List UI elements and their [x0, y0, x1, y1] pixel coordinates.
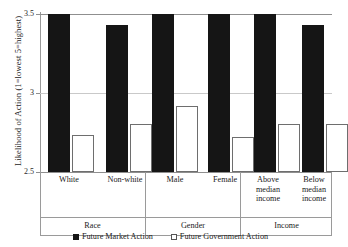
bar-market-female	[208, 14, 230, 172]
bar-market-above-median	[254, 14, 276, 172]
category-label-above-median-income: Above median income	[244, 175, 292, 204]
category-label-below-median-income-line-3: income	[290, 194, 338, 204]
bar-market-non-white	[106, 25, 128, 172]
legend-label-future-market-action: Future Market Action	[82, 232, 153, 241]
category-label-below-median-income-line-1: Below	[290, 175, 338, 185]
category-label-below-median-income-line-2: median	[290, 185, 338, 195]
category-label-above-median-income-line-2: median	[244, 185, 292, 195]
bar-market-white	[48, 14, 70, 172]
group-label-gender: Gender	[146, 221, 240, 231]
group-label-race: Race	[40, 221, 145, 231]
legend-swatch-filled-square-icon	[73, 234, 79, 240]
y-tick-label-bottom: 2.5	[14, 168, 34, 176]
legend-item-future-government-action: Future Government Action	[171, 232, 268, 241]
category-label-below-median-income: Below median income	[290, 175, 338, 204]
bar-government-non-white	[130, 124, 152, 172]
category-label-non-white: Non-white	[96, 175, 154, 185]
gridline-3	[40, 93, 332, 94]
y-tick-label-mid: 3	[14, 89, 34, 97]
plot-area	[40, 14, 332, 172]
bar-government-below-median	[326, 124, 348, 172]
bar-market-below-median	[302, 25, 324, 172]
bar-government-white	[72, 135, 94, 172]
category-label-white: White	[42, 175, 96, 185]
legend-swatch-outlined-square-icon	[171, 234, 177, 240]
bar-government-female	[232, 137, 254, 172]
category-label-above-median-income-line-3: income	[244, 194, 292, 204]
gridline-3-5	[40, 14, 332, 15]
category-label-white-line-1: White	[42, 175, 96, 185]
bar-government-above-median	[278, 124, 300, 172]
y-tick-label-top: 3.5	[14, 10, 34, 18]
bar-market-male	[152, 14, 174, 172]
legend-label-future-government-action: Future Government Action	[180, 232, 268, 241]
legend-item-future-market-action: Future Market Action	[73, 232, 153, 241]
category-label-above-median-income-line-1: Above	[244, 175, 292, 185]
category-label-male: Male	[150, 175, 200, 185]
category-label-non-white-line-1: Non-white	[96, 175, 154, 185]
chart-legend: Future Market Action Future Government A…	[0, 232, 341, 241]
bar-government-male	[176, 106, 198, 172]
group-label-income: Income	[241, 221, 332, 231]
category-label-male-line-1: Male	[150, 175, 200, 185]
